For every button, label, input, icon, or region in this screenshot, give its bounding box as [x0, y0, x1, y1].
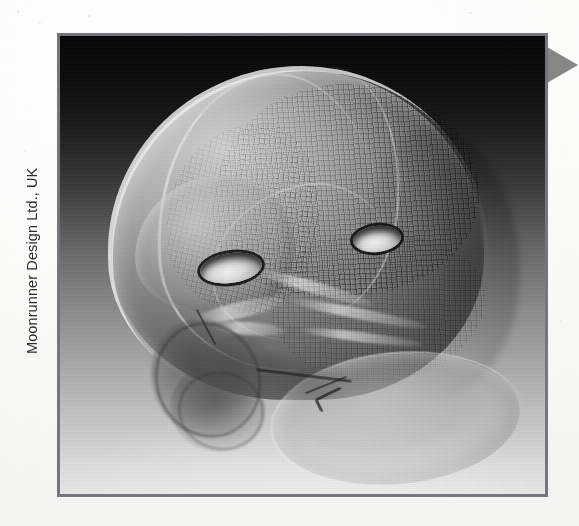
scan-speck [88, 15, 90, 17]
photo-credit-label: Moonrunner Design Ltd., UK [16, 168, 48, 354]
triangle-marker-icon [547, 47, 578, 83]
photo-credit-text: Moonrunner Design Ltd., UK [24, 168, 40, 354]
scan-speck [38, 22, 41, 24]
scan-speck [24, 150, 26, 152]
scan-speck [560, 320, 562, 322]
skull-volume-render [60, 36, 545, 494]
figure-frame [57, 33, 548, 497]
ambient-floor-glow [60, 344, 545, 497]
scan-speck [470, 12, 472, 14]
scan-speck [17, 10, 19, 13]
